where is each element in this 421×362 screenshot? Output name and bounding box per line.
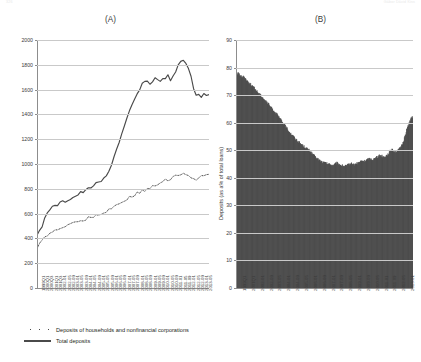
y-tick-label: 1400 — [11, 111, 33, 117]
y-tick-mark — [35, 238, 37, 239]
chart-b-y-axis — [236, 40, 237, 288]
x-tick-label: 1999Q1 — [242, 276, 247, 291]
y-tick-mark — [234, 68, 236, 69]
y-tick-label: 70 — [218, 92, 232, 98]
grid-line — [37, 90, 209, 91]
y-tick-mark — [35, 90, 37, 91]
running-head-right: Gábor Dávid Kiss — [384, 0, 415, 4]
x-tick-label: 2007-01 — [331, 275, 336, 291]
y-tick-label: 200 — [11, 260, 33, 266]
grid-line — [236, 150, 413, 151]
legend-line-icon — [24, 337, 52, 345]
y-tick-label: 600 — [11, 211, 33, 217]
x-tick-label: 2006-09 — [322, 275, 327, 291]
x-tick-label: 2004-09 — [295, 275, 300, 291]
y-tick-label: 1000 — [11, 161, 33, 167]
series-total-deposits — [37, 60, 209, 235]
y-tick-mark — [234, 150, 236, 151]
grid-line — [37, 40, 209, 41]
y-tick-mark — [35, 114, 37, 115]
x-tick-label: 2002-01 — [260, 275, 265, 291]
chart-panel-b: 0102030405060708090 — [210, 28, 421, 288]
x-tick-label: 2003-05 — [277, 275, 282, 291]
x-tick-label: 2007-09 — [339, 275, 344, 291]
y-tick-label: 60 — [218, 120, 232, 126]
y-tick-mark — [234, 233, 236, 234]
x-tick-label: 2011-01 — [384, 276, 389, 291]
x-tick-label: 2011-09 — [392, 276, 397, 291]
grid-line — [236, 95, 413, 96]
y-tick-label: 1200 — [11, 136, 33, 142]
legend-label: Total deposits — [56, 338, 90, 344]
grid-line — [37, 139, 209, 140]
y-tick-label: 1800 — [11, 62, 33, 68]
y-tick-label: 20 — [218, 230, 232, 236]
grid-line — [37, 164, 209, 165]
y-tick-mark — [35, 288, 37, 289]
y-tick-mark — [234, 288, 236, 289]
x-tick-label: 2009-01 — [357, 275, 362, 291]
running-head-left: 326 — [6, 0, 13, 4]
y-tick-mark — [234, 95, 236, 96]
grid-line — [37, 65, 209, 66]
grid-line — [236, 233, 413, 234]
y-tick-mark — [35, 65, 37, 66]
y-tick-mark — [35, 164, 37, 165]
y-tick-label: 800 — [11, 186, 33, 192]
x-tick-label: 2010-05 — [375, 275, 380, 291]
legend-dots-icon — [24, 326, 52, 334]
grid-line — [236, 260, 413, 261]
grid-line — [236, 205, 413, 206]
grid-line — [236, 123, 413, 124]
y-tick-label: 400 — [11, 235, 33, 241]
x-tick-label: 2008-05 — [348, 275, 353, 291]
y-tick-mark — [35, 214, 37, 215]
grid-line — [37, 214, 209, 215]
grid-line — [37, 114, 209, 115]
grid-line — [37, 238, 209, 239]
legend-item: Total deposits — [24, 335, 189, 346]
x-tick-label: 2013-01 — [410, 275, 415, 291]
x-tick-label: 2001Q1 — [251, 276, 256, 291]
chart-panel-a: 0200400600800100012001400160018002000 — [0, 28, 215, 288]
y-tick-mark — [35, 189, 37, 190]
chart-b-y-axis-label: Deposits (as a% of total loans) — [218, 147, 224, 220]
series-layer — [236, 40, 413, 288]
x-tick-label: 2006-01 — [313, 275, 318, 291]
y-tick-mark — [35, 40, 37, 41]
y-tick-label: 0 — [218, 285, 232, 291]
y-tick-label: 90 — [218, 37, 232, 43]
grid-line — [37, 263, 209, 264]
y-tick-mark — [234, 178, 236, 179]
y-tick-label: 80 — [218, 65, 232, 71]
y-tick-label: 1600 — [11, 87, 33, 93]
y-tick-label: 2000 — [11, 37, 33, 43]
x-tick-label: 2009-09 — [366, 275, 371, 291]
figure-page: 326 Gábor Dávid Kiss (A) (B) 02004006008… — [0, 0, 421, 362]
legend-item: Deposits of households and nonfinancial … — [24, 324, 189, 335]
grid-line — [37, 189, 209, 190]
y-tick-mark — [234, 260, 236, 261]
x-tick-label: 2002-09 — [269, 275, 274, 291]
x-tick-label: 2004-01 — [286, 275, 291, 291]
x-tick-label: 2012-05 — [401, 275, 406, 291]
y-tick-mark — [234, 205, 236, 206]
y-tick-mark — [35, 139, 37, 140]
y-tick-label: 0 — [11, 285, 33, 291]
area-fill-deposit-to-loan-ratio — [236, 72, 413, 288]
chart-b-x-tick-labels: 1999Q12001Q12002-012002-092003-052004-01… — [236, 291, 413, 331]
legend-label: Deposits of households and nonfinancial … — [56, 327, 189, 333]
panel-b-title: (B) — [315, 15, 326, 24]
grid-line — [236, 68, 413, 69]
y-tick-mark — [234, 40, 236, 41]
grid-line — [236, 178, 413, 179]
figure-legend: Deposits of households and nonfinancial … — [24, 324, 189, 346]
grid-line — [236, 40, 413, 41]
y-tick-mark — [234, 123, 236, 124]
panel-a-title: (A) — [105, 15, 116, 24]
x-tick-label: 2005-05 — [304, 275, 309, 291]
y-tick-mark — [35, 263, 37, 264]
y-tick-label: 10 — [218, 257, 232, 263]
chart-b-plot-area — [236, 40, 413, 288]
